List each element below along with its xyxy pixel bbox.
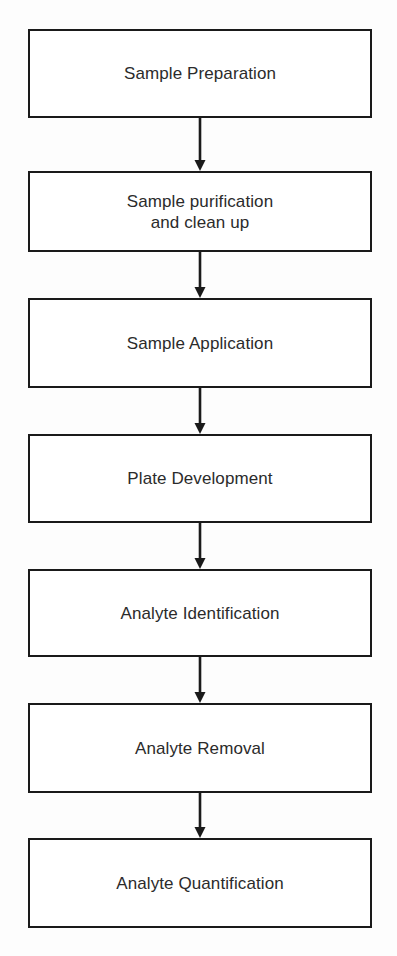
arrow-head-icon [195,287,206,298]
arrow-head-icon [195,423,206,434]
flow-node-sample-purification: Sample purification and clean up [28,171,372,252]
arrow-head-icon [195,827,206,838]
flow-arrow [0,523,397,569]
flow-node-sample-application: Sample Application [28,298,372,388]
flow-node-sample-preparation: Sample Preparation [28,29,372,118]
flow-node-label: Analyte Quantification [108,873,292,894]
flowchart-diagram: Sample PreparationSample purification an… [0,0,397,956]
flow-node-analyte-removal: Analyte Removal [28,703,372,793]
flow-node-label: Sample purification and clean up [119,191,281,233]
flow-node-label: Sample Preparation [116,63,284,84]
flow-node-plate-development: Plate Development [28,434,372,523]
arrow-head-icon [195,160,206,171]
flow-node-label: Analyte Removal [127,738,273,759]
flow-node-label: Sample Application [119,333,281,354]
flow-node-analyte-quantification: Analyte Quantification [28,838,372,928]
flow-node-analyte-identification: Analyte Identification [28,569,372,657]
flow-node-label: Plate Development [119,468,280,489]
flow-arrow [0,252,397,298]
flow-arrow [0,118,397,171]
flow-node-label: Analyte Identification [112,603,287,624]
flow-arrow [0,657,397,703]
flow-arrow [0,793,397,838]
arrow-head-icon [195,558,206,569]
flow-arrow [0,388,397,434]
arrow-head-icon [195,692,206,703]
